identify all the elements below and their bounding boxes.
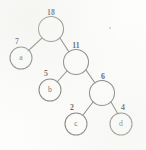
weight-label-w-6: 6 — [101, 72, 105, 81]
weight-label-w-5: 5 — [44, 69, 48, 78]
scan-artifacts-group — [109, 27, 111, 29]
tree-edge-n6-c — [83, 102, 93, 115]
speck-top-right — [109, 27, 111, 29]
tree-edge-root-n11 — [60, 38, 69, 52]
tree-node-b: b — [39, 79, 61, 101]
tree-edge-n6-d — [111, 102, 118, 114]
tree-edge-n11-b — [57, 71, 67, 82]
node-label-b: b — [48, 85, 52, 94]
weight-label-w-2: 2 — [70, 103, 74, 112]
tree-diagram-svg: abcd 187115624 — [0, 0, 146, 150]
tree-node-d: d — [110, 113, 132, 135]
node-label-d: d — [119, 119, 123, 128]
weight-label-w-4: 4 — [121, 103, 125, 112]
node-circle-root — [39, 17, 64, 42]
tree-edge-root-a — [28, 38, 42, 51]
tree-node-a: a — [10, 47, 32, 69]
tree-diagram-canvas: abcd 187115624 — [0, 0, 146, 150]
weight-label-w-11: 11 — [72, 41, 79, 50]
weight-label-w-7: 7 — [15, 37, 19, 46]
weight-label-w-18: 18 — [47, 8, 55, 17]
nodes-group: abcd — [10, 17, 132, 136]
node-circle-n6 — [90, 81, 115, 106]
node-circle-n11 — [64, 50, 89, 75]
tree-node-c: c — [65, 113, 87, 135]
tree-node-n6 — [90, 81, 115, 106]
tree-node-n11 — [64, 50, 89, 75]
tree-edge-n11-n6 — [86, 70, 95, 83]
tree-node-root — [39, 17, 64, 42]
